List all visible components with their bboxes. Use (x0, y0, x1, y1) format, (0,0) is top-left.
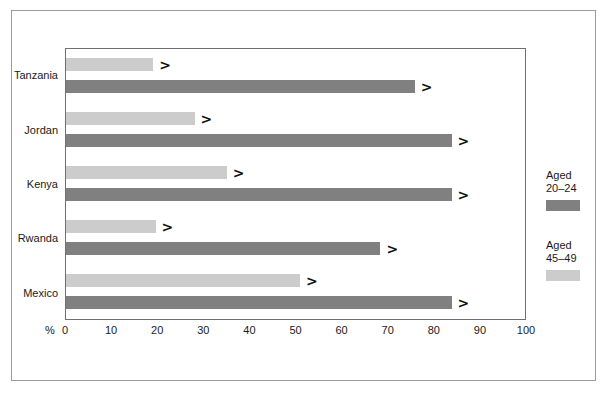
bar-group: >> (66, 49, 525, 103)
category-label: Jordan (24, 124, 58, 136)
category-label: Rwanda (18, 232, 58, 244)
x-axis-tick-label: 70 (382, 324, 394, 336)
bar-end-marker: > (458, 188, 470, 202)
bar (66, 220, 156, 233)
bar (66, 112, 195, 125)
x-axis-tick-label: 0 (62, 324, 68, 336)
bar-end-marker: > (458, 296, 470, 310)
plot-surface: >>>>>>>>>> (66, 49, 525, 319)
bar-group: >> (66, 211, 525, 265)
bar (66, 242, 380, 255)
legend-swatch (546, 200, 580, 211)
x-axis-tick-label: 100 (517, 324, 535, 336)
category-label: Tanzania (14, 69, 58, 81)
bar-end-marker: > (233, 166, 245, 180)
bar-end-marker: > (458, 134, 470, 148)
bar (66, 80, 415, 93)
legend-label: Aged (546, 169, 598, 182)
bar-end-marker: > (162, 220, 174, 234)
legend-entry: Aged20–24 (546, 169, 598, 211)
legend-label-range: 20–24 (546, 182, 598, 195)
bar-group: >> (66, 103, 525, 157)
bar-track: > (66, 112, 525, 125)
x-axis-tick-label: 80 (428, 324, 440, 336)
category-label: Mexico (23, 287, 58, 299)
bar-group: >> (66, 265, 525, 319)
legend-swatch (546, 270, 580, 281)
bar-track: > (66, 166, 525, 179)
legend-label-range: 45–49 (546, 252, 598, 265)
bar-end-marker: > (306, 274, 318, 288)
bar (66, 166, 227, 179)
bar-track: > (66, 188, 525, 201)
legend-label: Aged (546, 239, 598, 252)
bar-track: > (66, 274, 525, 287)
bar (66, 274, 300, 287)
legend: Aged20–24Aged45–49 (546, 169, 598, 281)
bar-track: > (66, 134, 525, 147)
x-axis-tick-label: 90 (474, 324, 486, 336)
bar-track: > (66, 80, 525, 93)
bar (66, 58, 153, 71)
bar-track: > (66, 220, 525, 233)
category-label: Kenya (27, 178, 58, 190)
bar-end-marker: > (159, 58, 171, 72)
legend-entry: Aged45–49 (546, 239, 598, 281)
bar (66, 188, 452, 201)
plot-area: >>>>>>>>>> (65, 48, 526, 320)
bar (66, 296, 452, 309)
bar (66, 134, 452, 147)
category-axis: TanzaniaJordanKenyaRwandaMexico (12, 48, 64, 320)
bar-end-marker: > (386, 242, 398, 256)
x-axis-tick-label: 20 (151, 324, 163, 336)
x-axis: 0102030405060708090100 (65, 322, 526, 344)
x-axis-tick-label: 50 (289, 324, 301, 336)
bar-end-marker: > (421, 80, 433, 94)
bar-track: > (66, 58, 525, 71)
x-axis-tick-label: 60 (335, 324, 347, 336)
x-axis-tick-label: 40 (243, 324, 255, 336)
bar-end-marker: > (201, 112, 213, 126)
bar-track: > (66, 242, 525, 255)
x-axis-unit-label: % (45, 324, 55, 336)
x-axis-tick-label: 10 (105, 324, 117, 336)
chart-figure: TanzaniaJordanKenyaRwandaMexico >>>>>>>>… (11, 10, 596, 381)
bar-track: > (66, 296, 525, 309)
bar-group: >> (66, 157, 525, 211)
x-axis-tick-label: 30 (197, 324, 209, 336)
